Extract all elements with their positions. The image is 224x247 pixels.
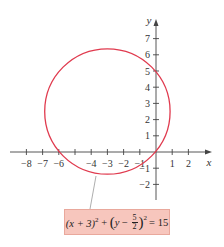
x-tick-label: −6 <box>53 158 64 169</box>
x-tick-label: −3 <box>102 158 113 169</box>
x-axis-arrow-icon <box>205 150 212 155</box>
y-tick-label: −2 <box>139 179 150 190</box>
x-tick-label: 2 <box>186 158 191 169</box>
y-tick-label: 6 <box>145 49 150 60</box>
y-tick-label: 1 <box>145 130 150 141</box>
x-tick-label: 1 <box>170 158 175 169</box>
y-tick-label: 7 <box>145 33 150 44</box>
equation-exponent: 2 <box>144 214 148 222</box>
x-tick-label: −7 <box>37 158 48 169</box>
equation-fraction: 52 <box>132 214 138 231</box>
equation-lhs: (x + 3) <box>66 217 95 228</box>
x-tick-label: −2 <box>118 158 129 169</box>
circle-curve <box>45 49 170 174</box>
x-axis-label: x <box>206 156 212 168</box>
y-axis-label: y <box>146 14 152 26</box>
equation-term-x: (x + 3)2 <box>66 216 99 229</box>
x-tick-label: −4 <box>86 158 97 169</box>
x-tick-label: −8 <box>21 158 32 169</box>
annotation-pointer <box>90 176 96 209</box>
y-tick-label: 2 <box>145 114 150 125</box>
y-tick-label: 3 <box>145 98 150 109</box>
equation-minus: − <box>119 217 130 228</box>
equation-plus: + <box>99 217 110 228</box>
y-tick-label: 4 <box>145 82 150 93</box>
equation-label: (x + 3)2 + (y − 52)2 = 15 <box>64 209 170 235</box>
equation-rhs: = 15 <box>149 217 168 228</box>
y-axis-arrow-icon <box>154 19 159 26</box>
fraction-denominator: 2 <box>133 223 137 231</box>
y-tick-label: 5 <box>145 66 150 77</box>
